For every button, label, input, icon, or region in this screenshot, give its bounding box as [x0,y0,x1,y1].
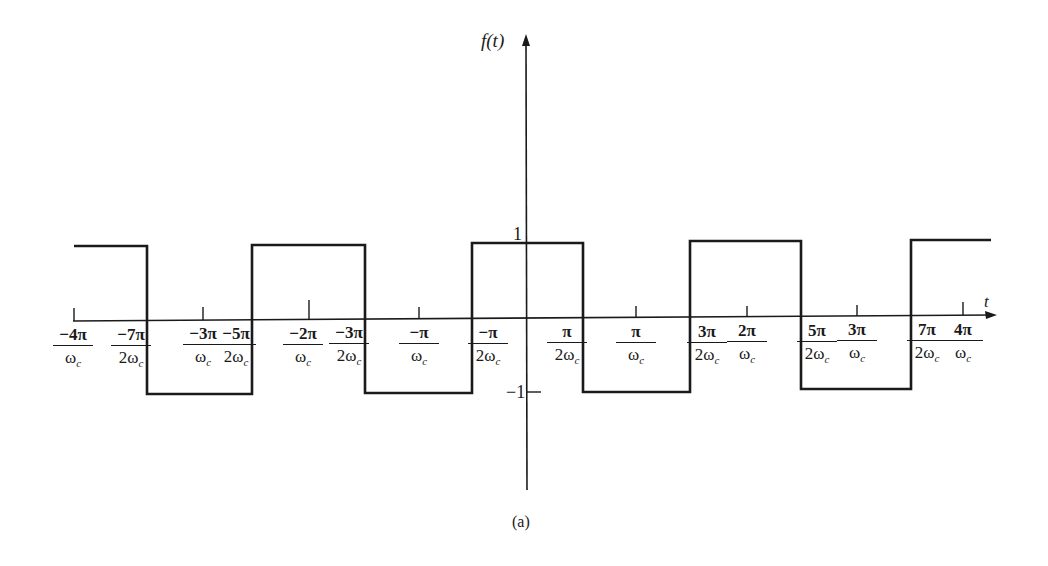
x-tick-label: π2ωc [547,323,587,366]
x-tick-label: 4πωc [943,321,983,364]
x-tick-label: −7π2ωc [111,326,151,369]
fraction-denominator: 2ωc [907,341,947,364]
fraction-denominator: ωc [943,341,983,364]
y-axis-label: f(t) [481,30,504,52]
fraction-denominator: 2ωc [329,344,369,367]
fraction-numerator: −π [468,324,508,344]
y-tick-label-neg1: −1 [506,382,525,403]
fraction-numerator: 3π [687,323,727,343]
fraction-numerator: π [616,323,656,343]
x-axis-arrow-icon [985,311,997,319]
x-tick-label: −3π2ωc [329,324,369,367]
fraction-numerator: 3π [837,321,877,341]
x-tick-label: 5π2ωc [797,322,837,365]
fraction-numerator: −4π [53,326,93,346]
x-tick-label: −π2ωc [468,324,508,367]
y-axis [526,42,527,490]
x-tick-label: 2πωc [727,322,767,365]
x-tick-label: 3πωc [837,321,877,364]
fraction-denominator: 2ωc [797,342,837,365]
fraction-numerator: π [547,323,587,343]
fraction-numerator: 2π [727,322,767,342]
fraction-numerator: 5π [797,322,837,342]
fraction-denominator: 2ωc [687,343,727,366]
fraction-numerator: −2π [283,325,323,345]
fraction-numerator: −π [399,324,439,344]
y-tick-label-1: 1 [513,224,522,245]
fraction-denominator: ωc [399,344,439,367]
square-wave-line [74,240,991,394]
square-wave-plot [0,0,1048,566]
fraction-denominator: ωc [616,343,656,366]
figure-caption: (a) [512,513,530,531]
y-axis-arrow-icon [522,34,530,46]
fraction-numerator: 4π [943,321,983,341]
fraction-denominator: ωc [53,346,93,369]
x-tick-label: 7π2ωc [907,321,947,364]
x-axis-label: t [984,292,989,312]
fraction-denominator: 2ωc [547,343,587,366]
fraction-denominator: ωc [837,341,877,364]
fraction-numerator: −5π [216,325,256,345]
x-tick-label: −4πωc [53,326,93,369]
fraction-denominator: 2ωc [468,344,508,367]
x-tick-label: −5π2ωc [216,325,256,368]
fraction-denominator: ωc [283,345,323,368]
fraction-denominator: 2ωc [111,346,151,369]
x-tick-label: 3π2ωc [687,323,727,366]
fraction-denominator: ωc [727,342,767,365]
x-tick-label: −2πωc [283,325,323,368]
fraction-numerator: 7π [907,321,947,341]
x-tick-label: −πωc [399,324,439,367]
fraction-numerator: −3π [329,324,369,344]
x-tick-label: πωc [616,323,656,366]
fraction-denominator: 2ωc [216,345,256,368]
fraction-numerator: −7π [111,326,151,346]
